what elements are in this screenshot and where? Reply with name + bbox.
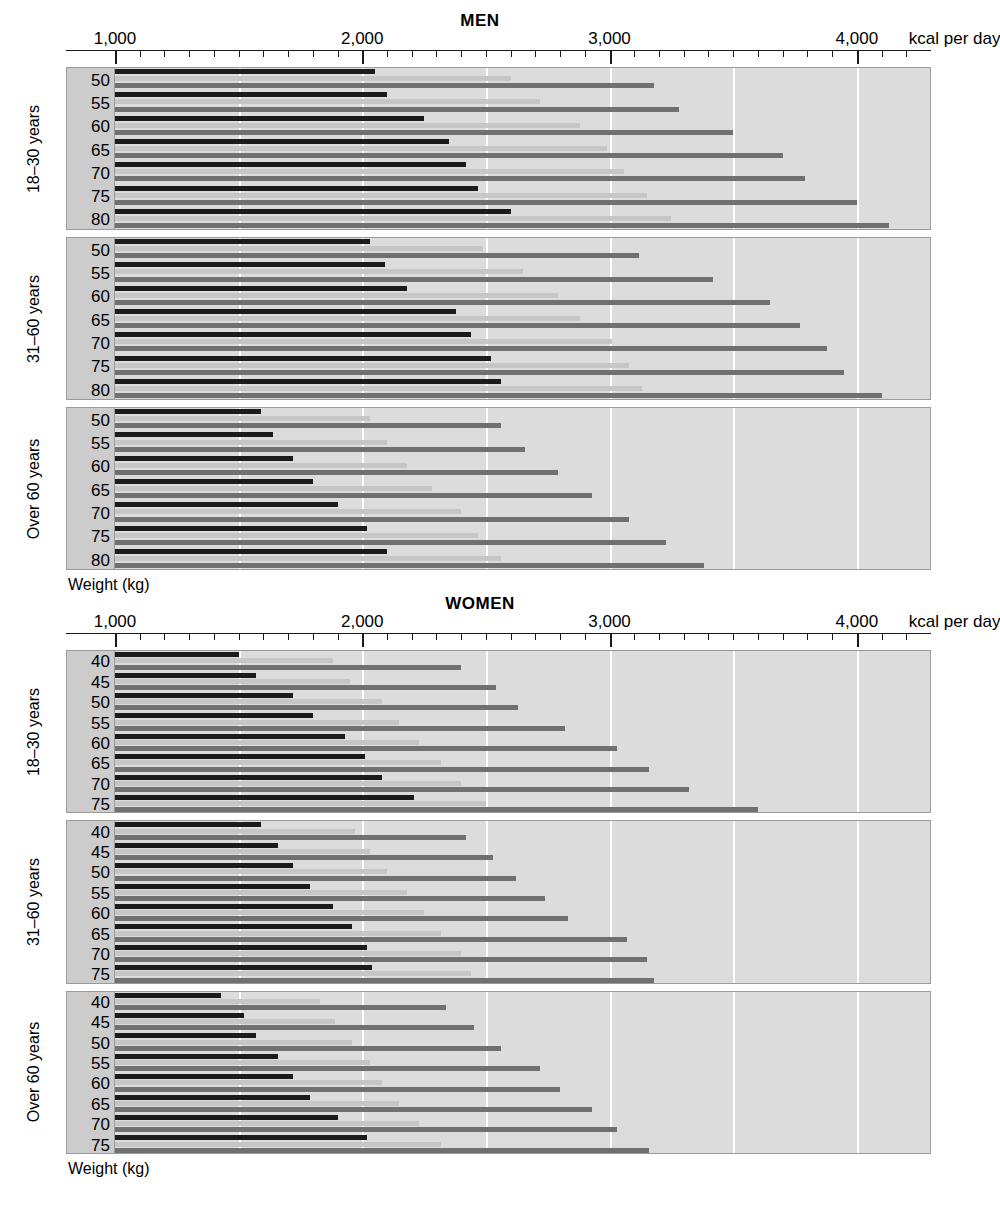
axis-minor-tick-3700: [783, 633, 784, 640]
bar-dark-50: [115, 1033, 256, 1038]
bar-dark-55: [115, 1054, 278, 1059]
axis-tick-label-2000: 2,000: [341, 612, 384, 632]
axis-minor-tick-3700: [783, 50, 784, 57]
gridline-3000: [610, 68, 612, 229]
bar-dark-50: [115, 239, 370, 244]
axis-minor-tick-1500: [239, 50, 240, 57]
bar-medium-75: [115, 200, 857, 205]
bar-dark-80: [115, 379, 501, 384]
axis-tick-label-3000: 3,000: [588, 612, 631, 632]
axis-minor-tick-2300: [436, 50, 437, 57]
gridline-4000: [857, 651, 859, 812]
bar-light-50: [115, 699, 382, 704]
bar-light-55: [115, 1060, 370, 1065]
bar-dark-65: [115, 309, 456, 314]
bar-light-75: [115, 533, 478, 538]
axis-unit-label: kcal per day: [909, 612, 1000, 632]
bar-medium-70: [115, 787, 689, 792]
bar-light-60: [115, 740, 419, 745]
axis-minor-tick-1100: [140, 633, 141, 640]
bar-light-75: [115, 193, 647, 198]
bar-light-65: [115, 931, 441, 936]
bar-medium-65: [115, 493, 592, 498]
bar-dark-60: [115, 116, 424, 121]
bar-dark-75: [115, 795, 414, 800]
axis-minor-tick-1200: [164, 633, 165, 640]
weight-label-75: 75: [91, 188, 110, 205]
bar-light-40: [115, 999, 320, 1004]
bar-medium-80: [115, 563, 704, 568]
axis-minor-tick-3600: [758, 633, 759, 640]
axis-minor-tick-3900: [832, 633, 833, 640]
bar-medium-45: [115, 685, 496, 690]
bar-dark-70: [115, 332, 471, 337]
axis-minor-tick-3400: [708, 50, 709, 57]
axis-tick-label-3000: 3,000: [588, 29, 631, 49]
axis-minor-tick-1400: [214, 633, 215, 640]
weight-label-80: 80: [91, 211, 110, 228]
bar-dark-75: [115, 526, 367, 531]
bar-medium-60: [115, 916, 568, 921]
weight-label-column: 4045505560657075: [67, 821, 115, 982]
gridline-3500: [733, 651, 735, 812]
chart-group-1: 31–60 years4045505560657075: [66, 820, 931, 983]
bar-dark-45: [115, 673, 256, 678]
axis-major-tick-3000: [610, 50, 612, 64]
bar-dark-60: [115, 1074, 293, 1079]
bar-light-60: [115, 910, 424, 915]
age-group-label-text: Over 60 years: [25, 438, 43, 538]
axis-minor-tick-1700: [288, 50, 289, 57]
weight-label-40: 40: [91, 993, 110, 1010]
axis-minor-tick-2200: [412, 633, 413, 640]
weight-label-75: 75: [91, 796, 110, 813]
bar-light-65: [115, 1101, 399, 1106]
weight-label-50: 50: [91, 411, 110, 428]
gridline-4000: [857, 408, 859, 569]
weight-label-75: 75: [91, 966, 110, 983]
axis-minor-tick-3500: [733, 633, 734, 640]
axis-minor-tick-2700: [535, 633, 536, 640]
bar-medium-40: [115, 835, 466, 840]
axis-minor-tick-1600: [263, 50, 264, 57]
bar-medium-65: [115, 153, 783, 158]
plot-area: [115, 821, 930, 982]
bar-light-45: [115, 849, 370, 854]
bar-light-55: [115, 720, 399, 725]
bar-dark-40: [115, 822, 261, 827]
bar-light-60: [115, 463, 407, 468]
axis-minor-tick-3900: [832, 50, 833, 57]
gridline-3500: [733, 821, 735, 982]
axis-minor-tick-2100: [387, 633, 388, 640]
axis-minor-tick-1700: [288, 633, 289, 640]
bar-medium-55: [115, 277, 713, 282]
axis-minor-tick-2700: [535, 50, 536, 57]
axis-minor-tick-1800: [313, 633, 314, 640]
weight-label-55: 55: [91, 1055, 110, 1072]
age-group-label: Over 60 years: [1, 992, 67, 1153]
weight-label-65: 65: [91, 481, 110, 498]
axis-minor-tick-1600: [263, 633, 264, 640]
bar-medium-70: [115, 517, 629, 522]
bar-dark-55: [115, 92, 387, 97]
weight-label-70: 70: [91, 505, 110, 522]
bar-dark-55: [115, 432, 273, 437]
axis-minor-tick-2500: [486, 50, 487, 57]
axis-minor-tick-2500: [486, 633, 487, 640]
bar-medium-50: [115, 705, 518, 710]
bar-medium-55: [115, 896, 545, 901]
bar-medium-75: [115, 978, 654, 983]
bar-dark-50: [115, 409, 261, 414]
bar-dark-80: [115, 209, 511, 214]
weight-label-70: 70: [91, 946, 110, 963]
axis-minor-tick-1800: [313, 50, 314, 57]
bar-medium-60: [115, 1087, 560, 1092]
bar-dark-65: [115, 1095, 310, 1100]
bar-medium-60: [115, 130, 733, 135]
axis-minor-tick-1500: [239, 633, 240, 640]
bar-light-65: [115, 316, 580, 321]
bar-medium-70: [115, 176, 805, 181]
women-axis: 1,0002,0003,0004,000kcal per day: [0, 612, 960, 650]
weight-label-50: 50: [91, 71, 110, 88]
axis-major-tick-3000: [610, 633, 612, 647]
bar-light-70: [115, 1121, 419, 1126]
